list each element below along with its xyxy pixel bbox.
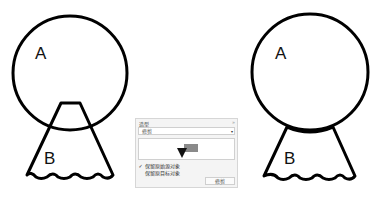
label-a-before: A	[35, 45, 46, 62]
circle-a-before[interactable]	[13, 16, 127, 130]
circle-a-after[interactable]	[252, 14, 368, 130]
label-b-before: B	[44, 150, 55, 167]
shaping-docker: 造型 » 修剪 ▾ ✓ 保留原始源对象 保留原目标对象 修剪	[135, 118, 238, 188]
trapezoid-b-trimmed[interactable]	[264, 127, 355, 180]
trim-cursor-icon	[177, 148, 187, 158]
operation-dropdown-value: 修剪	[142, 128, 152, 135]
collapse-icon[interactable]: »	[232, 119, 235, 125]
keep-source-option[interactable]: ✓ 保留原始源对象	[138, 163, 180, 170]
after-shapes	[252, 14, 368, 180]
label-a-after: A	[275, 45, 286, 62]
trim-button[interactable]: 修剪	[205, 177, 235, 185]
checkmark-icon[interactable]: ✓	[138, 164, 143, 169]
checkbox-icon[interactable]	[138, 171, 143, 176]
label-b-after: B	[284, 150, 295, 167]
keep-target-label: 保留原目标对象	[145, 170, 180, 177]
trim-preview	[138, 138, 235, 160]
trapezoid-b-before[interactable]	[27, 103, 113, 179]
before-shapes	[13, 16, 127, 179]
keep-target-option[interactable]: 保留原目标对象	[138, 170, 180, 177]
docker-title: 造型	[139, 120, 149, 127]
keep-source-label: 保留原始源对象	[145, 163, 180, 170]
chevron-down-icon[interactable]: ▾	[231, 128, 233, 135]
operation-dropdown[interactable]: 修剪 ▾	[138, 127, 235, 135]
